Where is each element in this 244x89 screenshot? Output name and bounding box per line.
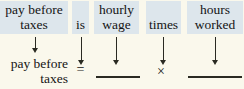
equals-sign: = [72, 63, 89, 77]
down-arrow-icon-3 [112, 37, 121, 65]
word-equation-figure: pay before taxes is hourly wage times ho… [0, 0, 244, 89]
phrase-line-1: hours [187, 2, 243, 17]
down-arrow-icon-2 [77, 37, 86, 65]
down-arrow-icon-4 [159, 37, 168, 65]
answer-blank-hourly-wage[interactable] [96, 76, 140, 78]
down-arrow-icon-5 [211, 37, 220, 65]
multiplication-sign: × [148, 65, 174, 79]
phrase-box-is: is [72, 1, 89, 34]
answer-blank-hours-worked[interactable] [188, 76, 242, 78]
down-arrow-icon-1 [31, 37, 40, 53]
equation-label-line-1: pay before [11, 56, 68, 71]
phrase-line-2: worked [187, 17, 243, 32]
phrase-line-2: wage [94, 17, 139, 32]
phrase-line-2: taxes [0, 17, 68, 32]
phrase-box-hourly-wage: hourly wage [94, 1, 139, 34]
phrase-box-times: times [146, 1, 181, 34]
phrase-line-1: pay before [0, 2, 68, 17]
phrase-line-1: times [146, 17, 181, 32]
equation-left-label: pay before taxes [0, 56, 68, 86]
phrase-box-hours-worked: hours worked [187, 1, 243, 34]
equation-label-line-2: taxes [40, 71, 68, 86]
phrase-line-1: is [72, 17, 89, 32]
phrase-line-1: hourly [94, 2, 139, 17]
phrase-box-pay-before-taxes: pay before taxes [0, 1, 68, 34]
